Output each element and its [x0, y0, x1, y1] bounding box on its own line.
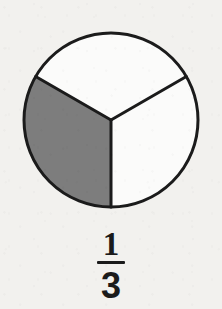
- fraction-circle-figure: 1 3: [0, 0, 222, 309]
- fraction-numerator: 1: [0, 228, 222, 258]
- fraction-label: 1 3: [0, 228, 222, 304]
- fraction-denominator: 3: [0, 268, 222, 304]
